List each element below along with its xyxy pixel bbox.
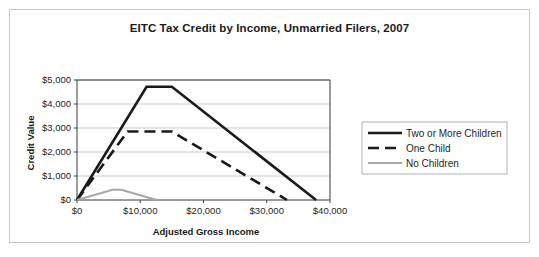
legend-label: Two or More Children [406, 128, 502, 139]
y-tick-label: $1,000 [42, 170, 71, 181]
legend-label: No Children [406, 158, 459, 169]
y-tick-label: $4,000 [42, 98, 71, 109]
chart-legend: Two or More ChildrenOne ChildNo Children [362, 122, 507, 174]
x-tick-label: $40,000 [313, 205, 347, 216]
horizontal-gridlines [77, 80, 330, 176]
y-axis-tick-labels: $0$1,000$2,000$3,000$4,000$5,000 [42, 74, 71, 205]
x-axis-title: Adjusted Gross Income [153, 226, 260, 237]
chart-plot-area: $0$10,000$20,000$30,000$40,000 $0$1,000$… [10, 10, 531, 244]
series-line [77, 190, 157, 200]
chart-container: EITC Tax Credit by Income, Unmarried Fil… [9, 9, 530, 243]
x-tick-label: $20,000 [186, 205, 220, 216]
x-tick-label: $10,000 [123, 205, 157, 216]
y-axis-title: Credit Value [25, 116, 36, 171]
y-tick-label: $2,000 [42, 146, 71, 157]
x-tick-label: $30,000 [250, 205, 284, 216]
y-tick-label: $0 [60, 194, 71, 205]
y-tick-label: $3,000 [42, 122, 71, 133]
legend-label: One Child [406, 143, 450, 154]
y-tick-label: $5,000 [42, 74, 71, 85]
x-tick-label: $0 [72, 205, 83, 216]
x-axis-tick-labels: $0$10,000$20,000$30,000$40,000 [72, 205, 347, 216]
